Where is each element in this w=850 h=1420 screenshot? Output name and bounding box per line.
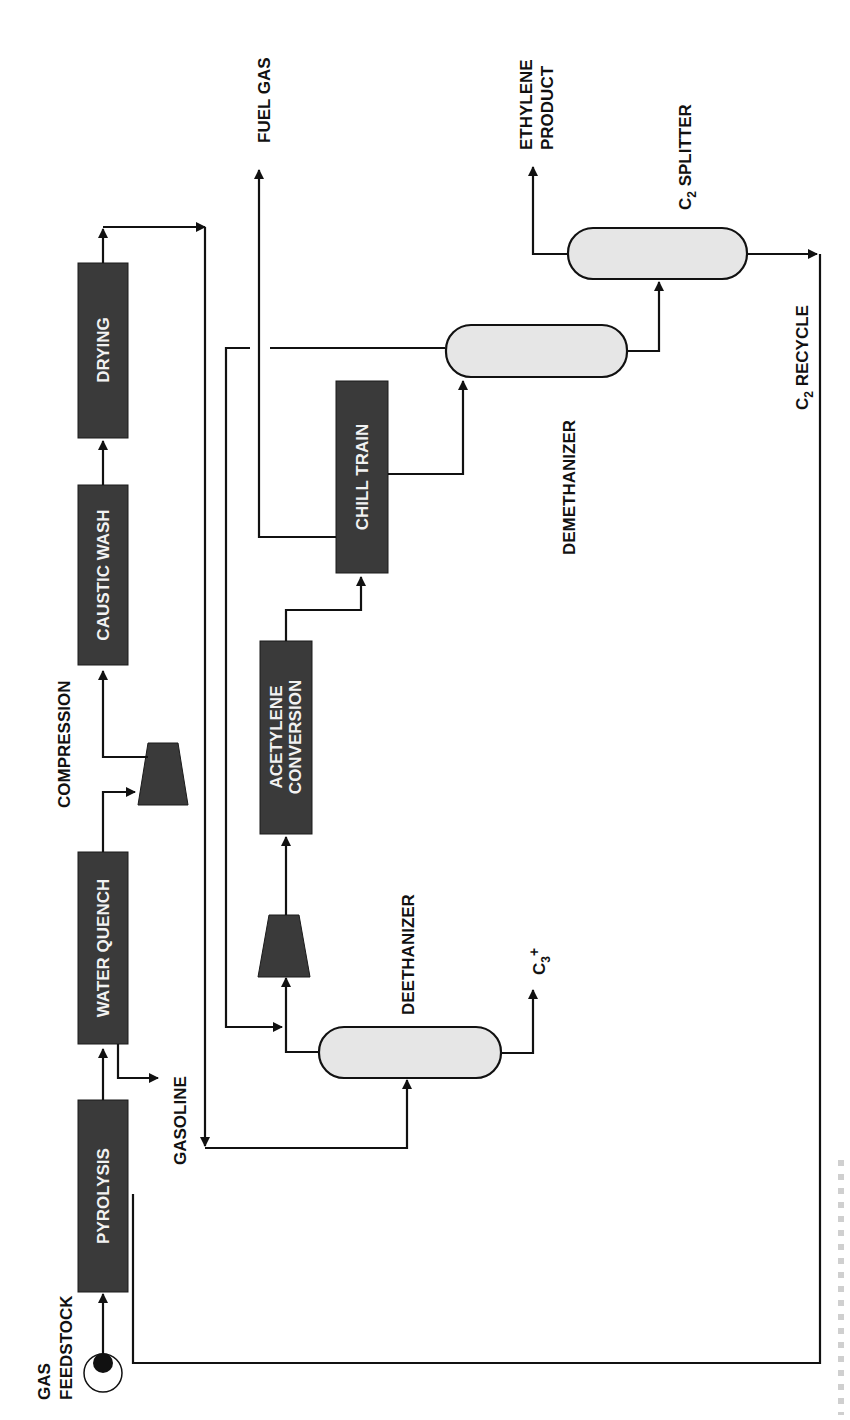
drying-label: DRYING	[94, 317, 113, 383]
pyrolysis-label: PYROLYSIS	[94, 1148, 113, 1244]
unit-caustic-wash: CAUSTIC WASH	[78, 485, 128, 665]
c3plus-label: C3+	[526, 948, 553, 975]
ethylene-label: ETHYLENE	[517, 59, 536, 150]
unit-chill-train: CHILL TRAIN	[336, 381, 388, 573]
line-deethanizer-overhead	[286, 978, 319, 1052]
line-chill-to-demethanizer	[388, 381, 463, 474]
compression-label: COMPRESSION	[55, 680, 74, 808]
line-fuel-gas	[259, 170, 336, 537]
unit-pyrolysis: PYROLYSIS	[78, 1100, 128, 1292]
line-acetylene-to-chill	[286, 577, 361, 641]
line-c2-recycle	[133, 254, 820, 1363]
line-gasoline	[118, 1044, 158, 1078]
unit-drying: DRYING	[78, 263, 128, 438]
conversion-label: CONVERSION	[286, 680, 305, 794]
line-quench-to-compressor	[103, 792, 135, 852]
line-c3plus	[501, 990, 533, 1053]
compressor-1-icon	[138, 743, 188, 805]
gas-feedstock-label-2: FEEDSTOCK	[57, 1295, 76, 1400]
deethanizer-label: DEETHANIZER	[399, 894, 418, 1015]
fuel-gas-label: FUEL GAS	[255, 57, 274, 143]
c2-recycle-label: C2 RECYCLE	[793, 305, 816, 410]
deethanizer-vessel	[319, 1027, 501, 1078]
unit-acetylene-conversion: ACETYLENE CONVERSION	[260, 641, 312, 834]
gas-feedstock-label: GAS	[35, 1363, 54, 1400]
product-label: PRODUCT	[538, 65, 557, 150]
demethanizer-vessel	[446, 325, 627, 377]
chill-train-label: CHILL TRAIN	[353, 424, 372, 530]
gasoline-label: GASOLINE	[171, 1076, 190, 1165]
caustic-wash-label: CAUSTIC WASH	[94, 509, 113, 640]
line-to-deethanizer	[205, 1080, 407, 1148]
line-demethanizer-to-splitter	[627, 282, 659, 351]
figure-caption	[838, 1160, 844, 1415]
water-quench-label: WATER QUENCH	[94, 879, 113, 1018]
c2-splitter-vessel	[568, 228, 747, 279]
unit-water-quench: WATER QUENCH	[78, 852, 128, 1044]
line-ethylene-product	[533, 167, 568, 254]
process-flow-diagram: GAS FEEDSTOCK PYROLYSIS WATER QUENCH GAS…	[0, 0, 850, 1420]
compressor-2-icon	[258, 915, 310, 977]
line-compressor-to-caustic	[103, 671, 148, 757]
demethanizer-label: DEMETHANIZER	[560, 420, 579, 555]
c2-splitter-label: C2 SPLITTER	[676, 104, 699, 210]
gas-feedstock-source-icon	[84, 1353, 122, 1392]
acetylene-label: ACETYLENE	[267, 686, 286, 789]
